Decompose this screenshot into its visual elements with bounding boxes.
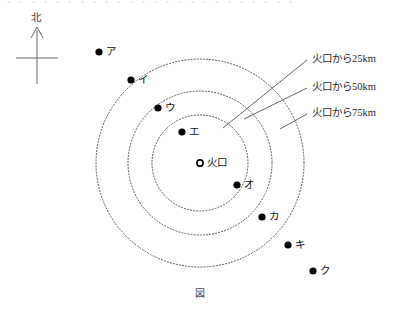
point-marker-u <box>154 104 161 111</box>
point-marker-o <box>233 181 240 188</box>
point-label-i: イ <box>138 75 148 86</box>
figure-container: ・ ・ ・ ・ ・ ・ ・ ・ ・ ・ ・ ・ ・ ・ ・ ・ ・ ・ ・ ・ … <box>0 0 411 312</box>
point-marker-ki <box>284 241 291 248</box>
legend-label-25km: 火口から25km <box>312 54 376 65</box>
observation-point-markers <box>95 48 316 274</box>
compass-rose <box>16 27 58 84</box>
point-label-ku: ク <box>320 266 330 277</box>
point-label-o: オ <box>244 180 254 191</box>
point-marker-a <box>95 48 102 55</box>
compass-north-label: 北 <box>31 13 41 24</box>
point-marker-i <box>127 76 134 83</box>
crater-marker <box>197 160 203 166</box>
point-marker-e <box>178 128 185 135</box>
legend-leader-lines <box>223 60 307 129</box>
figure-caption: 図 <box>195 289 205 299</box>
legend-label-75km: 火口から75km <box>312 108 376 119</box>
figure-canvas <box>0 0 411 312</box>
point-marker-ku <box>309 267 316 274</box>
crater-label: 火口 <box>207 158 227 169</box>
point-marker-ka <box>258 213 265 220</box>
legend-label-50km: 火口から50km <box>312 82 376 93</box>
point-label-e: エ <box>189 127 199 138</box>
point-label-a: ア <box>106 47 116 58</box>
point-label-ki: キ <box>295 240 305 251</box>
point-label-ka: カ <box>269 212 279 223</box>
point-label-u: ウ <box>165 103 175 114</box>
leader-line-75km <box>280 114 307 129</box>
